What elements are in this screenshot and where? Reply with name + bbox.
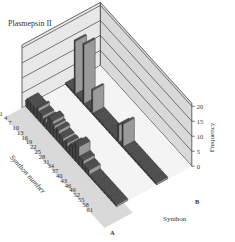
x-tick-label: 61 [87,206,94,213]
row-a-label: A [110,229,115,236]
row-b-label: B [195,198,200,205]
z-tick-label: 5 [197,148,200,155]
z-axis-label: Frequency [208,122,216,152]
z-tick-label: 15 [197,118,204,125]
x-tick-label: 1 [0,110,3,117]
y-axis-label: Synthon [163,215,187,223]
z-tick-label: 20 [197,103,204,110]
chart-title: Plasmepsin II [8,19,52,28]
chart-3d-bar: Plasmepsin II 14710131619222528313437404… [0,0,235,242]
z-tick-label: 10 [197,133,204,140]
z-tick-label: 0 [197,163,200,170]
chart-canvas: 147101316192225283134374043464952555861S… [0,0,235,242]
z-axis-ticks: 05101520 [192,103,204,170]
